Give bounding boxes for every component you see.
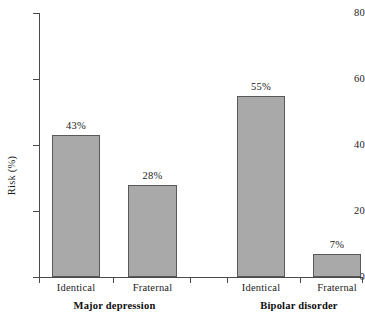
x-category-label: Identical [36,282,116,294]
bar-chart: Risk (%) 0 20 40 60 80 43% 28% 55% 7% Id… [0,0,365,322]
y-axis-label: Risk (%) [6,141,17,211]
bar-value-label: 55% [237,81,285,92]
group-label-major-depression: Major depression [45,300,185,312]
y-tick-label-60: 60 [339,74,365,84]
y-tick-label-20: 20 [339,206,365,216]
bar-value-label: 28% [128,170,177,181]
y-tick-40 [33,145,39,146]
y-tick-80 [33,13,39,14]
bar-bipolar-disorder-identical [237,96,285,278]
bar-value-label: 7% [313,239,361,250]
y-tick-label-80: 80 [339,8,365,18]
y-axis-line [39,13,40,278]
x-category-label: Fraternal [297,282,365,294]
y-tick-label-40: 40 [339,140,365,150]
bar-bipolar-disorder-fraternal [313,254,361,277]
bar-major-depression-fraternal [128,185,177,277]
x-category-label: Identical [221,282,301,294]
x-category-label: Fraternal [113,282,193,294]
y-tick-60 [33,79,39,80]
y-tick-20 [33,211,39,212]
bar-value-label: 43% [52,120,100,131]
bar-major-depression-identical [52,135,100,277]
x-axis-line [39,277,363,278]
group-label-bipolar-disorder: Bipolar disorder [229,300,365,312]
